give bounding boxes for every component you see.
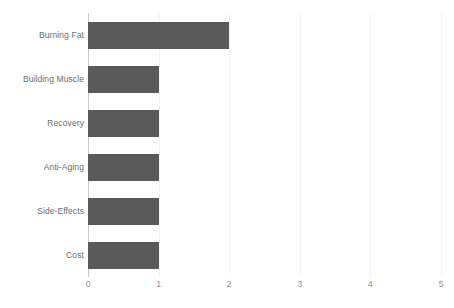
bar-row bbox=[88, 145, 441, 189]
bar-row bbox=[88, 233, 441, 277]
x-tick-label-0: 0 bbox=[73, 279, 103, 289]
y-axis-label-side-effects: Side-Effects bbox=[0, 189, 84, 233]
bar-cost[interactable] bbox=[88, 242, 159, 269]
bar-anti-aging[interactable] bbox=[88, 154, 159, 181]
x-axis-tick-labels: 012345 bbox=[0, 279, 454, 295]
bar-row bbox=[88, 57, 441, 101]
y-axis-label-cost: Cost bbox=[0, 233, 84, 277]
plot-area bbox=[88, 13, 441, 277]
bar-row bbox=[88, 101, 441, 145]
x-tick-label-3: 3 bbox=[285, 279, 315, 289]
bar-chart: Burning FatBuilding MuscleRecoveryAnti-A… bbox=[0, 0, 454, 308]
bar-side-effects[interactable] bbox=[88, 198, 159, 225]
y-axis-label-burning-fat: Burning Fat bbox=[0, 13, 84, 57]
x-tick-label-5: 5 bbox=[426, 279, 454, 289]
y-axis-label-building-muscle: Building Muscle bbox=[0, 57, 84, 101]
bar-row bbox=[88, 13, 441, 57]
x-tick-label-2: 2 bbox=[214, 279, 244, 289]
y-axis-category-labels: Burning FatBuilding MuscleRecoveryAnti-A… bbox=[0, 13, 84, 277]
bar-building-muscle[interactable] bbox=[88, 66, 159, 93]
bar-row bbox=[88, 189, 441, 233]
y-axis-label-recovery: Recovery bbox=[0, 101, 84, 145]
x-tick-label-1: 1 bbox=[144, 279, 174, 289]
y-axis-label-anti-aging: Anti-Aging bbox=[0, 145, 84, 189]
bar-burning-fat[interactable] bbox=[88, 22, 229, 49]
bars bbox=[88, 13, 441, 277]
gridline-x-5 bbox=[441, 13, 442, 277]
x-tick-label-4: 4 bbox=[355, 279, 385, 289]
bar-recovery[interactable] bbox=[88, 110, 159, 137]
